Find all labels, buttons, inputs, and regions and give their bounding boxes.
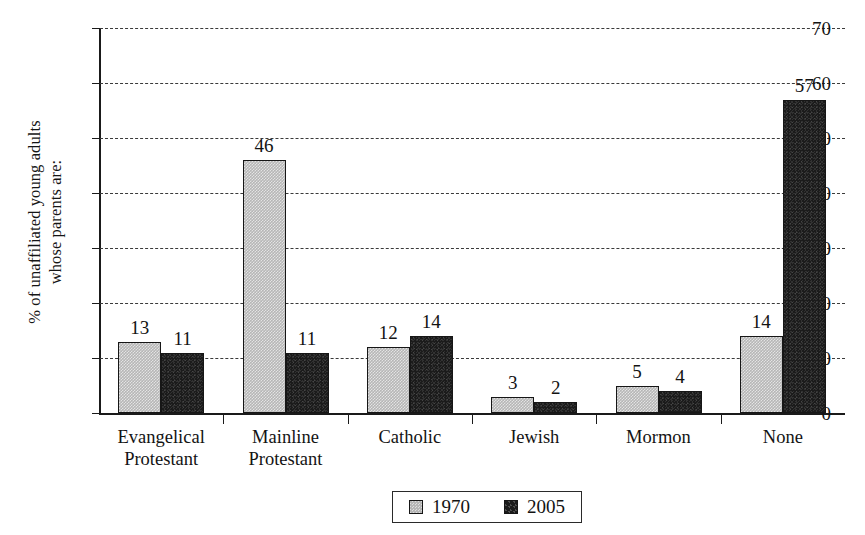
x-tick-mark [596, 413, 597, 424]
bar-value-label: 11 [274, 329, 341, 348]
gridline [100, 358, 845, 359]
bar-1970-evangelical-protestant [118, 342, 161, 414]
x-category-label-line: Protestant [223, 448, 347, 470]
x-category-label: Jewish [472, 426, 596, 448]
legend-item-2005: 2005 [504, 497, 565, 516]
bar-value-label: 57 [771, 76, 838, 95]
x-category-label-line: Jewish [472, 426, 596, 448]
y-axis-title-line-2: whose parents are: [46, 30, 66, 415]
bar-1970-mainline-protestant [243, 160, 286, 413]
x-category-label: EvangelicalProtestant [99, 426, 223, 470]
bar-1970-catholic [367, 347, 410, 413]
legend-label: 1970 [432, 497, 470, 516]
x-category-label-line: Catholic [348, 426, 472, 448]
legend-item-1970: 1970 [409, 497, 470, 516]
bar-2005-mainline-protestant [286, 353, 329, 414]
y-tick-mark [92, 358, 100, 359]
gridline [100, 138, 845, 139]
x-tick-mark [223, 413, 224, 424]
x-category-label: Catholic [348, 426, 472, 448]
bar-chart: % of unaffiliated young adults whose par… [0, 0, 865, 535]
bar-value-label: 11 [149, 329, 216, 348]
x-category-label-line: Mainline [223, 426, 347, 448]
bar-1970-none [740, 336, 783, 413]
x-category-label: None [721, 426, 845, 448]
y-tick-label: 70 [785, 19, 831, 38]
bar-2005-none [783, 100, 826, 414]
bar-2005-mormon [659, 391, 702, 413]
y-axis-line [99, 28, 101, 413]
bar-value-label: 14 [398, 312, 465, 331]
gridline [100, 303, 845, 304]
x-category-label-line: Protestant [99, 448, 223, 470]
bar-1970-jewish [491, 397, 534, 414]
legend: 19702005 [392, 491, 582, 523]
bar-2005-evangelical-protestant [161, 353, 204, 414]
bar-2005-jewish [534, 402, 577, 413]
legend-label: 2005 [527, 497, 565, 516]
bar-1970-mormon [616, 386, 659, 414]
bar-value-label: 46 [231, 136, 298, 155]
bar-value-label: 14 [728, 312, 795, 331]
y-tick-mark [92, 248, 100, 249]
x-category-label-line: Mormon [596, 426, 720, 448]
y-tick-mark [92, 28, 100, 29]
legend-swatch-icon [504, 500, 518, 514]
gridline [100, 83, 845, 84]
x-category-label-line: None [721, 426, 845, 448]
y-axis-title: % of unaffiliated young adults whose par… [8, 30, 60, 415]
x-category-label-line: Evangelical [99, 426, 223, 448]
y-tick-mark [92, 138, 100, 139]
x-tick-mark [721, 413, 722, 424]
x-category-label: MainlineProtestant [223, 426, 347, 470]
bar-2005-catholic [410, 336, 453, 413]
legend-swatch-icon [409, 500, 423, 514]
gridline [100, 28, 845, 29]
gridline [100, 193, 845, 194]
x-tick-mark [348, 413, 349, 424]
bar-value-label: 4 [647, 367, 714, 386]
bar-value-label: 2 [522, 378, 589, 397]
gridline [100, 248, 845, 249]
y-axis-title-line-1: % of unaffiliated young adults [25, 30, 45, 415]
y-tick-mark [92, 303, 100, 304]
y-tick-mark [92, 413, 100, 414]
x-tick-mark [472, 413, 473, 424]
y-tick-mark [92, 193, 100, 194]
x-category-label: Mormon [596, 426, 720, 448]
plot-area: 010203040506070 13114611121432541457 [99, 28, 845, 413]
y-tick-mark [92, 83, 100, 84]
